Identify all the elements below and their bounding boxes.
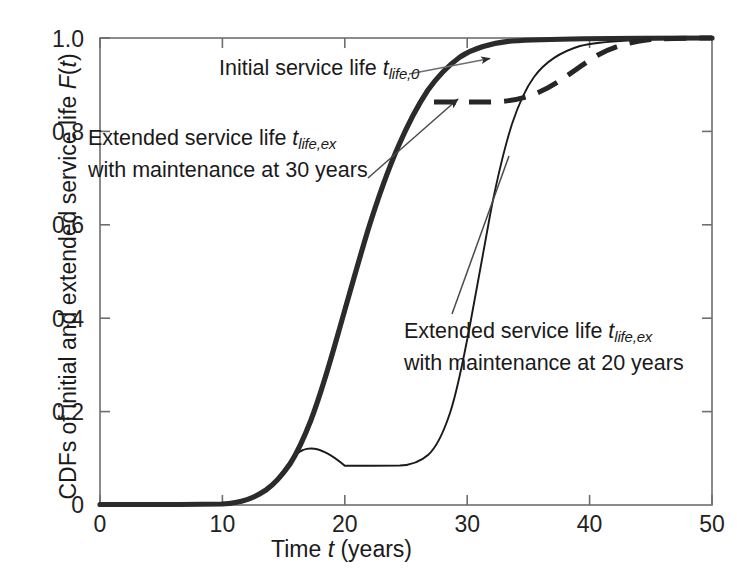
x-tick-label-0: 0 [70, 511, 130, 538]
x-axis-title-lead: Time [271, 536, 328, 562]
x-axis-title-tail: (years) [334, 536, 412, 562]
y-axis-title-tail: ( [55, 67, 81, 75]
annotation-ext20-lead: Extended service life [404, 319, 608, 343]
y-axis-title-tail2: ) [55, 53, 81, 61]
x-tick-label-10: 10 [192, 511, 252, 538]
annotation-ext20-line2: with maintenance at 20 years [404, 350, 684, 376]
annotation-ext20-subscript: life,ex [614, 328, 652, 345]
x-tick-label-20: 20 [315, 511, 375, 538]
annotation-ext20-line1: Extended service life tlife,ex [404, 318, 684, 350]
y-axis-title: CDFs of initial and extended service lif… [55, 42, 82, 512]
annotation-extended-20-years: Extended service life tlife,ex with main… [404, 318, 684, 376]
y-axis-title-symbol: F [55, 75, 81, 89]
y-axis-title-lead: CDFs of initial and extended service lif… [55, 89, 81, 499]
x-axis-title: Time t (years) [271, 536, 412, 563]
annotation-ext30-line1: Extended service life tlife,ex [88, 125, 368, 157]
annotation-ext30-subscript: life,ex [298, 135, 336, 152]
annotation-extended-30-years: Extended service life tlife,ex with main… [88, 125, 368, 183]
annotation-initial-lead: Initial service life [219, 56, 383, 80]
x-tick-label-40: 40 [560, 511, 620, 538]
chart-canvas [0, 0, 737, 582]
annotation-initial-subscript: life,0 [389, 65, 420, 82]
y-axis-title-symbol2: t [55, 61, 81, 67]
annotation-ext30-line2: with maintenance at 30 years [88, 157, 368, 183]
annotation-ext30-lead: Extended service life [88, 126, 292, 150]
plot-frame [100, 38, 712, 505]
x-tick-label-30: 30 [437, 511, 497, 538]
annotation-initial-service-life: Initial service life tlife,0 [219, 55, 419, 87]
x-tick-label-50: 50 [682, 511, 737, 538]
chart-figure: 1.0 0.8 0.6 0.4 0.2 0 0 10 20 30 40 50 T… [0, 0, 737, 582]
